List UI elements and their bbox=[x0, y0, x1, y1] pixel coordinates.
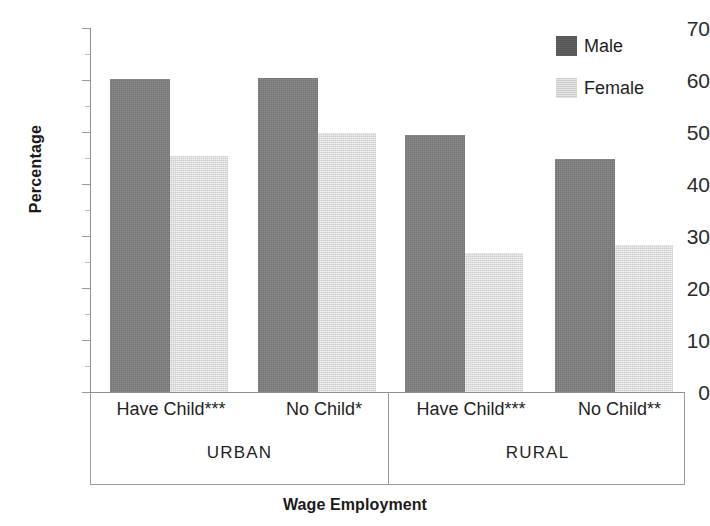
y-tickmark bbox=[82, 392, 90, 393]
bar-male-urban-no-child bbox=[258, 78, 318, 392]
legend-item-female: Female bbox=[556, 78, 644, 98]
y-tickmark bbox=[82, 28, 90, 29]
bar-chart: Percentage 70 60 50 40 30 20 10 0 bbox=[0, 0, 710, 526]
category-label-urban-have-child: Have Child*** bbox=[91, 399, 251, 420]
category-label-urban-no-child: No Child* bbox=[259, 399, 389, 420]
bar-male-rural-have-child bbox=[405, 135, 465, 392]
legend: Male Female bbox=[556, 36, 644, 120]
bar-male-urban-have-child bbox=[110, 79, 170, 392]
legend-swatch-female-icon bbox=[556, 78, 577, 98]
group-label-rural: RURAL bbox=[389, 443, 686, 463]
bar-female-urban-no-child bbox=[318, 133, 376, 392]
category-label-rural-have-child: Have Child*** bbox=[391, 399, 551, 420]
bar-female-rural-have-child bbox=[465, 253, 523, 392]
y-axis-title: Percentage bbox=[27, 89, 45, 249]
legend-label-female: Female bbox=[584, 79, 644, 97]
y-tickmark bbox=[82, 80, 90, 81]
bar-male-rural-no-child bbox=[555, 159, 615, 392]
y-tickmark bbox=[82, 288, 90, 289]
y-tickmark bbox=[82, 132, 90, 133]
legend-swatch-male-icon bbox=[556, 36, 577, 56]
y-tickmark bbox=[82, 236, 90, 237]
bar-female-rural-no-child bbox=[615, 245, 673, 392]
bar-female-urban-have-child bbox=[170, 156, 228, 392]
x-axis-title: Wage Employment bbox=[0, 496, 710, 514]
legend-item-male: Male bbox=[556, 36, 644, 56]
legend-label-male: Male bbox=[584, 37, 623, 55]
category-label-rural-no-child: No Child** bbox=[553, 399, 686, 420]
group-label-urban: URBAN bbox=[91, 443, 388, 463]
category-label-box: Have Child*** No Child* Have Child*** No… bbox=[90, 393, 685, 485]
y-tickmark bbox=[82, 340, 90, 341]
y-tickmark bbox=[82, 184, 90, 185]
